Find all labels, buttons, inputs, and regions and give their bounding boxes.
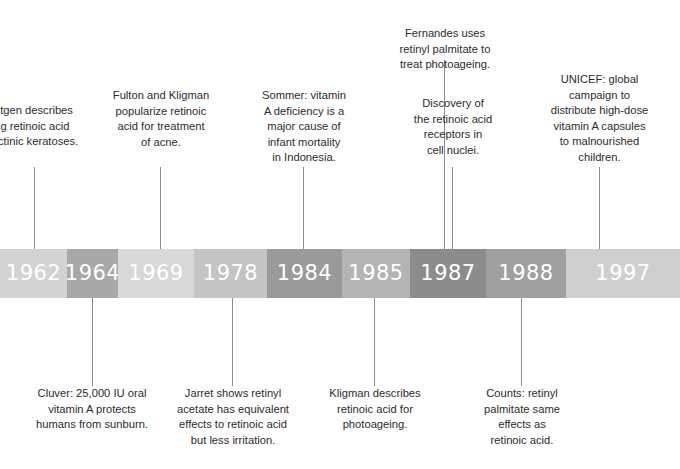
connector-line-1997 xyxy=(599,167,600,249)
timeline-diagram: 1962 1964 1969 1978 1984 1985 1987 1988 … xyxy=(0,0,680,469)
event-caption-1969: Fulton and Kligman popularize retinoic a… xyxy=(101,88,221,150)
connector-line-1964 xyxy=(92,298,93,386)
event-caption-1985: Kligman describes retinoic acid for phot… xyxy=(320,386,430,433)
year-label: 1988 xyxy=(498,263,553,284)
connector-line-1987 xyxy=(452,167,453,249)
year-cell-1969[interactable]: 1969 xyxy=(118,249,194,298)
event-caption-1978: Jarret shows retinyl acetate has equival… xyxy=(170,386,296,448)
connector-line-1985 xyxy=(374,298,375,386)
event-caption-1964: Cluver: 25,000 IU oral vitamin A protect… xyxy=(30,386,154,433)
year-label: 1984 xyxy=(277,263,332,284)
year-cell-1984[interactable]: 1984 xyxy=(267,249,342,298)
event-caption-1984: Sommer: vitamin A deficiency is a major … xyxy=(248,88,360,166)
event-caption-1988: Counts: retinyl palmitate same effects a… xyxy=(470,386,574,448)
year-cell-1962[interactable]: 1962 xyxy=(0,249,67,298)
year-label: 1997 xyxy=(595,263,650,284)
connector-line-1962 xyxy=(34,167,35,249)
year-label: 1969 xyxy=(128,263,183,284)
connector-line-1969 xyxy=(160,167,161,249)
year-label: 1978 xyxy=(203,263,258,284)
connector-line-1988 xyxy=(521,298,522,386)
year-label: 1962 xyxy=(6,263,61,284)
connector-line-1978 xyxy=(232,298,233,386)
year-cell-1987[interactable]: 1987 xyxy=(410,249,486,298)
year-cell-1985[interactable]: 1985 xyxy=(342,249,410,298)
year-cell-1997[interactable]: 1997 xyxy=(566,249,680,298)
year-cell-1978[interactable]: 1978 xyxy=(194,249,267,298)
year-label: 1964 xyxy=(65,263,120,284)
event-caption-1997: UNICEF: global campaign to distribute hi… xyxy=(533,72,666,165)
year-cell-1988[interactable]: 1988 xyxy=(486,249,566,298)
year-label: 1985 xyxy=(348,263,403,284)
event-caption-fernandes: Fernandes uses retinyl palmitate to trea… xyxy=(384,26,506,73)
year-label: 1987 xyxy=(420,263,475,284)
event-caption-1987: Discovery of the retinoic acid receptors… xyxy=(398,96,508,158)
year-cell-1964[interactable]: 1964 xyxy=(67,249,118,298)
event-caption-1962: ttgen describes g retinoic acid actinic … xyxy=(0,103,88,150)
timeline-year-band: 1962 1964 1969 1978 1984 1985 1987 1988 … xyxy=(0,249,680,298)
connector-line-1984 xyxy=(303,167,304,249)
